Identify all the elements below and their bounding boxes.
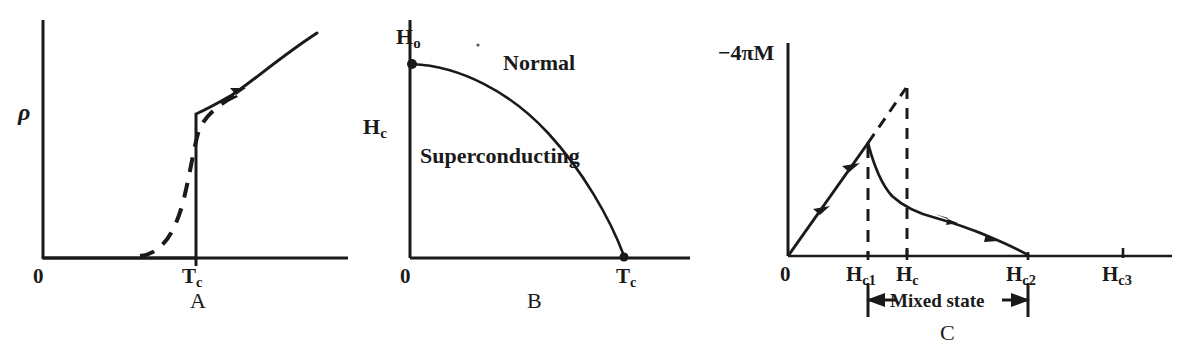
panel-c-tick-label-hc3: Hc3 (1102, 264, 1132, 285)
panel-b-hc-base: H (363, 114, 380, 139)
panel-c-meissner-line (788, 143, 868, 256)
panel-a: ρ 0 Tc A (0, 0, 360, 358)
scan-speck (476, 43, 479, 46)
panel-c-tick-label-hc2: Hc2 (1006, 264, 1036, 285)
panel-b-hc-sub: c (380, 125, 387, 141)
panel-c-hc1-sub: c1 (862, 272, 875, 288)
panel-c-hc-base: H (896, 262, 912, 286)
panel-c-caption: C (940, 322, 955, 344)
panel-b-region-superconducting-label: Superconducting (420, 145, 580, 167)
panel-c-tick-label-hc: Hc (896, 264, 919, 285)
panel-c-mixed-state-curve (868, 143, 1028, 255)
panel-c-hc1-base: H (846, 262, 862, 286)
panel-a-tc-base: T (182, 264, 196, 288)
panel-b-marker-tc (620, 253, 629, 262)
panel-c-y-axis-label: −4πM (718, 42, 774, 64)
panel-b-x-origin-label: 0 (400, 266, 411, 287)
panel-a-ideal-transition-curve (43, 33, 317, 258)
panel-a-x-tc-label: Tc (182, 266, 202, 287)
panel-a-caption: A (190, 290, 206, 312)
panel-b-h0-base: H (396, 24, 413, 49)
panel-a-y-axis-label: ρ (18, 100, 30, 124)
panel-c-hc2-sub: c2 (1022, 272, 1035, 288)
panel-b-h0-sub: o (413, 35, 420, 51)
panel-c-hc3-sub: c3 (1118, 272, 1131, 288)
panel-c-arrowhead-up-icon (841, 163, 860, 179)
panel-c-arrowhead-down-icon (812, 206, 830, 222)
panel-b-y-axis-label: Hc (363, 116, 387, 138)
panel-a-plot (0, 0, 360, 358)
panel-c-hc2-base: H (1006, 262, 1022, 286)
panel-b-tc-sub: c (630, 274, 636, 290)
panel-b: Ho Hc Normal Superconducting 0 Tc B (360, 0, 710, 358)
panel-b-marker-h0 (407, 59, 417, 69)
panel-c-hc-sub: c (912, 272, 918, 288)
panel-c-mixed-state-annotation: Mixed state (890, 291, 984, 310)
superconductivity-figure: ρ 0 Tc A Ho Hc Normal Superconducting 0 … (0, 0, 1186, 358)
panel-b-x-tc-label: Tc (616, 266, 636, 287)
panel-b-region-normal-label: Normal (503, 52, 575, 74)
panel-c-ideal-extension-dashed (868, 88, 906, 143)
panel-c: −4πM 0 Hc1 Hc Hc2 Hc3 Mixed state C (710, 0, 1186, 358)
panel-b-y-top-label: Ho (396, 26, 421, 48)
panel-b-caption: B (527, 290, 542, 312)
panel-c-x-origin-label: 0 (780, 264, 791, 285)
panel-a-broadened-transition-curve (140, 95, 236, 256)
panel-c-hc3-base: H (1102, 262, 1118, 286)
panel-c-tick-label-hc1: Hc1 (846, 264, 876, 285)
panel-a-x-origin-label: 0 (33, 266, 44, 287)
panel-b-tc-base: T (616, 264, 630, 288)
